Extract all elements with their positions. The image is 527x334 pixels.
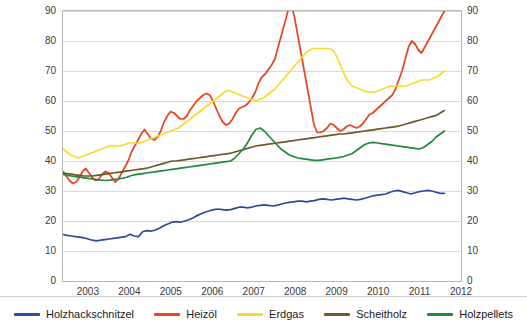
legend-label: Erdgas	[269, 308, 304, 320]
legend-color-swatch	[154, 313, 180, 316]
legend-item[interactable]: Holzpellets	[427, 308, 513, 320]
legend-item[interactable]: Heizöl	[154, 308, 217, 320]
y-tick-label-right: 10	[467, 245, 493, 256]
legend-color-swatch	[427, 313, 453, 316]
series-line	[63, 49, 444, 159]
legend-label: Scheitholz	[356, 308, 407, 320]
y-tick-label-left: 0	[30, 275, 56, 286]
legend-color-swatch	[237, 313, 263, 316]
y-tick-label-left: 30	[30, 185, 56, 196]
y-tick-label-left: 40	[30, 155, 56, 166]
series-line	[63, 190, 444, 240]
y-tick-label-left: 50	[30, 125, 56, 136]
legend-label: Holzpellets	[459, 308, 513, 320]
y-tick-label-left: 80	[30, 35, 56, 46]
series-line	[63, 11, 444, 184]
legend-color-swatch	[14, 313, 40, 316]
chart-root: Euro pro kWh 0102030405060708090 0102030…	[0, 0, 527, 334]
y-tick-label-right: 0	[467, 275, 493, 286]
y-tick-label-left: 70	[30, 65, 56, 76]
legend-color-swatch	[324, 313, 350, 316]
y-tick-label-left: 10	[30, 245, 56, 256]
y-tick-label-right: 40	[467, 155, 493, 166]
legend-item[interactable]: Holzhackschnitzel	[14, 308, 134, 320]
series-lines	[63, 11, 461, 281]
legend-item[interactable]: Scheitholz	[324, 308, 407, 320]
y-tick-label-left: 20	[30, 215, 56, 226]
y-tick-label-left: 90	[30, 5, 56, 16]
legend-label: Heizöl	[186, 308, 217, 320]
y-tick-label-right: 80	[467, 35, 493, 46]
series-line	[63, 111, 444, 176]
y-tick-label-right: 50	[467, 125, 493, 136]
y-tick-label-left: 60	[30, 95, 56, 106]
y-tick-label-right: 60	[467, 95, 493, 106]
legend-divider	[0, 296, 527, 297]
chart-legend: HolzhackschnitzelHeizölErdgasScheitholzH…	[0, 302, 527, 326]
y-tick-label-right: 30	[467, 185, 493, 196]
plot-area	[62, 10, 462, 282]
y-tick-label-right: 70	[467, 65, 493, 76]
legend-item[interactable]: Erdgas	[237, 308, 304, 320]
y-tick-label-right: 90	[467, 5, 493, 16]
y-tick-label-right: 20	[467, 215, 493, 226]
legend-label: Holzhackschnitzel	[46, 308, 134, 320]
